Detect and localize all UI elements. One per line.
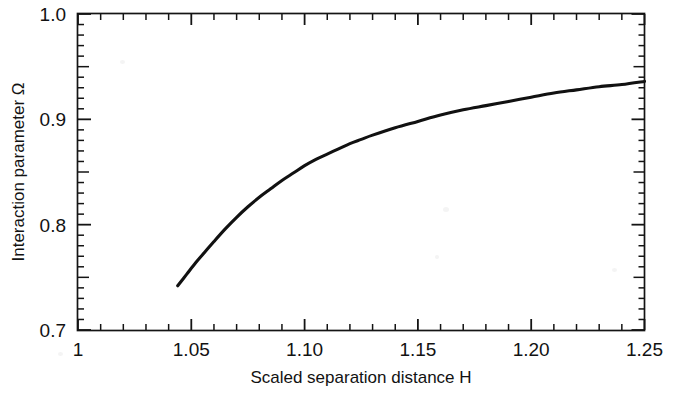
x-tick-label: 1.05 (173, 339, 210, 360)
x-axis-ticks-bottom (78, 319, 645, 330)
line-chart: 11.051.101.151.201.25 0.70.80.91.0 Scale… (0, 0, 675, 401)
figure-canvas: 11.051.101.151.201.25 0.70.80.91.0 Scale… (0, 0, 675, 401)
x-axis-title: Scaled separation distance H (250, 368, 471, 387)
plot-frame (78, 14, 645, 331)
y-axis-tick-labels: 0.70.80.91.0 (40, 4, 66, 341)
series-line (178, 81, 645, 285)
data-series-group (178, 81, 645, 285)
x-axis-ticks-top (78, 14, 645, 25)
x-tick-label: 1 (73, 339, 84, 360)
y-tick-label: 0.7 (40, 320, 66, 341)
y-axis-ticks-left (78, 14, 91, 330)
x-tick-label: 1.10 (286, 339, 323, 360)
y-tick-label: 0.9 (40, 109, 66, 130)
y-tick-label: 1.0 (40, 4, 66, 25)
y-axis-title: Interaction parameter Ω (9, 82, 28, 261)
y-tick-label: 0.8 (40, 215, 66, 236)
x-axis-tick-labels: 11.051.101.151.201.25 (73, 339, 663, 360)
y-axis-ticks-right (632, 14, 645, 330)
x-tick-label: 1.25 (626, 339, 663, 360)
x-tick-label: 1.15 (399, 339, 436, 360)
x-tick-label: 1.20 (513, 339, 550, 360)
